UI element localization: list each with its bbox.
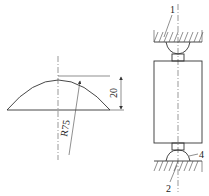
callout-4-leader — [189, 154, 198, 156]
callout-1-label: 1 — [170, 4, 175, 15]
callout-2-label: 2 — [166, 183, 171, 194]
diagram-canvas: 20 R75 — [0, 0, 209, 196]
cap-arc — [7, 80, 110, 110]
fixture-figure: 1 2 4 — [154, 4, 204, 194]
top-plate-hatch — [154, 30, 203, 42]
callout-2-leader — [170, 165, 177, 182]
callout-4-label: 4 — [199, 149, 204, 160]
radius-label: R75 — [58, 119, 72, 137]
radius-leader — [69, 81, 80, 155]
height-dimension-label: 20 — [108, 88, 119, 98]
callout-1-leader — [164, 15, 172, 37]
spherical-cap-figure: 20 R75 — [7, 56, 124, 160]
